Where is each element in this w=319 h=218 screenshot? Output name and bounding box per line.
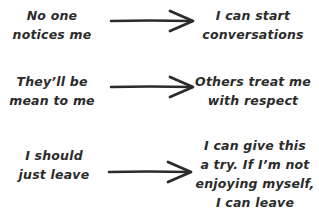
row-2-from: They’ll be mean to me <box>9 72 95 110</box>
text-line: I can leave <box>196 193 315 212</box>
text-line: with respect <box>195 91 311 110</box>
row-2-to: Others treat me with respect <box>195 72 311 110</box>
text-line: enjoying myself, <box>196 174 315 193</box>
row-1-to: I can start conversations <box>202 6 303 44</box>
arrow-right-icon <box>108 8 196 34</box>
text-line: No one <box>13 6 92 25</box>
row-3-from: I should just leave <box>19 146 90 184</box>
text-line: Others treat me <box>195 72 311 91</box>
arrow-right-icon <box>108 74 196 100</box>
text-line: I can give this <box>196 136 315 155</box>
row-3-to: I can give this a try. If I’m not enjoyi… <box>196 136 315 212</box>
text-line: mean to me <box>9 91 95 110</box>
text-line: just leave <box>19 165 90 184</box>
row-1-from: No one notices me <box>13 6 92 44</box>
text-line: conversations <box>202 25 303 44</box>
text-line: notices me <box>13 25 92 44</box>
text-line: I can start <box>202 6 303 25</box>
text-line: I should <box>19 146 90 165</box>
text-line: a try. If I’m not <box>196 155 315 174</box>
text-line: They’ll be <box>9 72 95 91</box>
arrow-right-icon <box>106 159 194 185</box>
